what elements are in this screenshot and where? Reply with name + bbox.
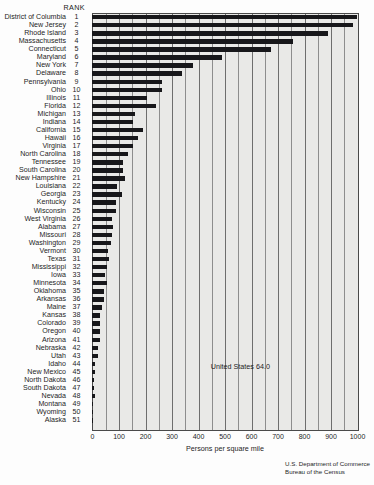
state-label: Louisiana	[0, 182, 66, 190]
chart-row: South Carolina20	[0, 166, 374, 174]
state-label: Rhode Island	[0, 29, 66, 37]
rank-value: 9	[68, 78, 85, 86]
state-label: Washington	[0, 239, 66, 247]
state-label: South Carolina	[0, 166, 66, 174]
bar	[92, 144, 133, 148]
state-label: Arizona	[0, 336, 66, 344]
rank-value: 27	[68, 223, 85, 231]
rank-value: 1	[68, 13, 85, 21]
chart-row: Minnesota34	[0, 279, 374, 287]
rank-value: 51	[68, 416, 85, 424]
bar	[92, 257, 109, 261]
state-label: Indiana	[0, 118, 66, 126]
bar	[92, 96, 147, 100]
state-label: Maryland	[0, 53, 66, 61]
chart-row: Louisiana22	[0, 182, 374, 190]
rank-value: 32	[68, 263, 85, 271]
bar	[92, 192, 122, 196]
bar	[92, 152, 128, 156]
chart-row: Texas31	[0, 255, 374, 263]
state-label: California	[0, 126, 66, 134]
state-label: Illinois	[0, 94, 66, 102]
chart-row: Arizona41	[0, 336, 374, 344]
chart-row: Indiana14	[0, 118, 374, 126]
bar	[92, 362, 95, 366]
bar	[92, 265, 107, 269]
rank-value: 21	[68, 174, 85, 182]
chart-row: Rhode Island3	[0, 29, 374, 37]
state-label: Massachusetts	[0, 37, 66, 45]
chart-row: Nebraska42	[0, 344, 374, 352]
rank-value: 11	[68, 94, 85, 102]
rank-value: 23	[68, 190, 85, 198]
state-label: Colorado	[0, 319, 66, 327]
chart-row: District of Columbia1	[0, 13, 374, 21]
chart-row: California15	[0, 126, 374, 134]
bar	[92, 217, 112, 221]
state-label: District of Columbia	[0, 13, 66, 21]
rank-value: 37	[68, 303, 85, 311]
rank-value: 34	[68, 279, 85, 287]
rank-value: 38	[68, 311, 85, 319]
rank-value: 44	[68, 360, 85, 368]
rank-value: 14	[68, 118, 85, 126]
state-label: Missouri	[0, 231, 66, 239]
rank-value: 42	[68, 344, 85, 352]
rank-value: 46	[68, 376, 85, 384]
bar	[92, 313, 100, 317]
rank-value: 22	[68, 182, 85, 190]
chart-row: Colorado39	[0, 319, 374, 327]
bar	[92, 39, 293, 43]
state-label: Wisconsin	[0, 207, 66, 215]
chart-row: Iowa33	[0, 271, 374, 279]
chart-row: Kentucky24	[0, 198, 374, 206]
state-label: Michigan	[0, 110, 66, 118]
bar	[92, 233, 112, 237]
rank-value: 24	[68, 198, 85, 206]
rank-value: 5	[68, 45, 85, 53]
bar	[92, 209, 116, 213]
bar	[92, 378, 94, 382]
rank-value: 43	[68, 352, 85, 360]
bar	[92, 305, 102, 309]
rank-value: 40	[68, 327, 85, 335]
bar	[92, 200, 116, 204]
state-label: Alaska	[0, 416, 66, 424]
rank-value: 33	[68, 271, 85, 279]
bar	[92, 15, 357, 19]
x-tick-label: 200	[140, 433, 152, 440]
chart-row: Massachusetts4	[0, 37, 374, 45]
rank-value: 4	[68, 37, 85, 45]
chart-row: Alaska51	[0, 416, 374, 424]
bar	[92, 273, 105, 277]
rank-value: 13	[68, 110, 85, 118]
chart-row: Vermont30	[0, 247, 374, 255]
state-label: Georgia	[0, 190, 66, 198]
state-label: Kansas	[0, 311, 66, 319]
x-tick-label: 600	[246, 433, 258, 440]
chart-row: Oklahoma35	[0, 287, 374, 295]
rank-value: 31	[68, 255, 85, 263]
state-label: Ohio	[0, 86, 66, 94]
bar	[92, 80, 162, 84]
bar	[92, 71, 182, 75]
bar	[92, 63, 193, 67]
state-label: Alabama	[0, 223, 66, 231]
x-tick-label: 0	[91, 433, 95, 440]
chart-row: New Mexico45	[0, 368, 374, 376]
state-label: Idaho	[0, 360, 66, 368]
chart-row: New Jersey2	[0, 21, 374, 29]
rank-value: 26	[68, 215, 85, 223]
state-label: New York	[0, 61, 66, 69]
rank-value: 2	[68, 21, 85, 29]
state-label: New Hampshire	[0, 174, 66, 182]
rank-value: 41	[68, 336, 85, 344]
chart-row: Delaware8	[0, 69, 374, 77]
rank-value: 25	[68, 207, 85, 215]
chart-row: Utah43	[0, 352, 374, 360]
rank-value: 30	[68, 247, 85, 255]
bar	[92, 386, 94, 390]
bar	[92, 249, 108, 253]
chart-row: Wisconsin25	[0, 207, 374, 215]
x-tick-label: 900	[325, 433, 337, 440]
